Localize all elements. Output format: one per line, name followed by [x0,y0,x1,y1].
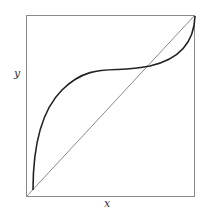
figure-canvas: y x [0,0,207,217]
x-axis-label: x [104,197,111,210]
y-axis-label: y [13,67,21,80]
diagonal-line [27,16,195,197]
